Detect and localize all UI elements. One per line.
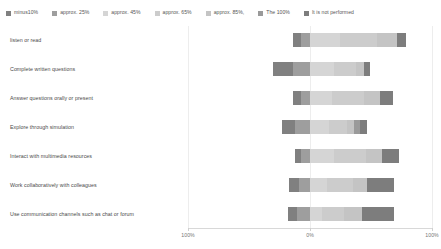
legend-item-label: approx. 25% [60,10,89,15]
legend-item-label: It is not performed [312,10,354,15]
category-label: Complete written questions [10,66,75,72]
bar-segment[interactable] [382,149,399,163]
stacked-bar[interactable] [293,33,406,47]
legend-item[interactable]: approx. 65% [155,10,192,15]
legend-item-label: approx. 65% [163,10,192,15]
bar-segment[interactable] [310,120,330,134]
bar-segment[interactable] [334,149,366,163]
chart-row: Interact with multimedia resources [0,141,441,170]
chart-row: Explore through simulation [0,113,441,142]
bar-segment[interactable] [329,120,346,134]
bar-segment[interactable] [301,91,310,105]
bar-segment[interactable] [362,207,394,221]
bar-segment[interactable] [295,120,310,134]
bar-segment[interactable] [364,91,380,105]
stacked-bar[interactable] [293,91,393,105]
bar-segment[interactable] [301,33,310,47]
bar-segment[interactable] [282,120,295,134]
legend-item[interactable]: The 100% [258,10,290,15]
legend-item-label: minus10% [14,10,38,15]
bar-segment[interactable] [377,33,397,47]
legend-item-label: The 100% [266,10,290,15]
bar-segment[interactable] [397,33,407,47]
bar-segment[interactable] [364,62,370,76]
chart-row: Complete written questions [0,55,441,84]
stacked-bar[interactable] [273,62,369,76]
bar-segment[interactable] [344,207,362,221]
legend-swatch-icon [155,11,160,16]
plot-area: listen or readComplete written questions… [0,26,441,228]
bar-segment[interactable] [322,207,344,221]
bar-segment[interactable] [299,178,310,192]
bar-segment[interactable] [353,178,368,192]
axis-tick [310,228,311,231]
bar-segment[interactable] [380,91,393,105]
bar-segment[interactable] [356,62,363,76]
diverging-stacked-bar-chart: minus10%approx. 25%approx. 45%approx. 65… [0,0,441,249]
chart-row: Work collaboratively with colleagues [0,170,441,199]
bar-segment[interactable] [288,207,297,221]
category-label: Work collaboratively with colleagues [10,182,97,188]
axis-tick [432,228,433,231]
axis-tick-label: 0% [306,232,314,238]
bar-segment[interactable] [332,91,364,105]
stacked-bar[interactable] [289,178,394,192]
bar-segment[interactable] [367,178,394,192]
legend-swatch-icon [304,11,309,16]
bar-segment[interactable] [293,91,302,105]
axis-tick-label: 100% [181,232,194,238]
stacked-bar[interactable] [282,120,367,134]
bar-segment[interactable] [340,33,377,47]
bar-segment[interactable] [301,149,310,163]
chart-legend: minus10%approx. 25%approx. 45%approx. 65… [0,0,441,26]
legend-item-label: approx. 45% [111,10,140,15]
chart-row: listen or read [0,26,441,55]
bar-segment[interactable] [293,33,302,47]
category-label: Explore through simulation [10,124,74,130]
legend-item-label: approx. 85%, [214,10,245,15]
bar-segment[interactable] [310,33,341,47]
stacked-bar[interactable] [295,149,399,163]
bar-segment[interactable] [293,62,310,76]
category-label: Interact with multimedia resources [10,153,92,159]
bar-segment[interactable] [327,178,353,192]
bar-segment[interactable] [310,178,327,192]
legend-swatch-icon [206,11,211,16]
legend-swatch-icon [52,11,57,16]
axis-tick-label: 100% [425,232,438,238]
legend-swatch-icon [6,11,11,16]
legend-item[interactable]: It is not performed [304,10,354,15]
chart-row: Answer questions orally or present [0,84,441,113]
bar-segment[interactable] [273,62,293,76]
bar-segment[interactable] [347,120,354,134]
bar-segment[interactable] [360,120,367,134]
legend-item[interactable]: approx. 45% [103,10,140,15]
bar-segment[interactable] [297,207,310,221]
chart-row: Use communication channels such as chat … [0,199,441,228]
category-label: listen or read [10,37,41,43]
axis-tick [188,228,189,231]
bar-segment[interactable] [289,178,299,192]
category-label: Answer questions orally or present [10,95,93,101]
legend-swatch-icon [103,11,108,16]
legend-swatch-icon [258,11,263,16]
bar-segment[interactable] [310,62,334,76]
bar-segment[interactable] [310,91,332,105]
legend-item[interactable]: approx. 85%, [206,10,245,15]
stacked-bar[interactable] [288,207,394,221]
legend-item[interactable]: approx. 25% [52,10,89,15]
legend-item[interactable]: minus10% [6,10,38,15]
x-axis: 100%0%100% [0,228,441,249]
bar-segment[interactable] [366,149,382,163]
bar-segment[interactable] [310,149,334,163]
bar-segment[interactable] [310,207,322,221]
category-label: Use communication channels such as chat … [10,211,134,217]
bar-segment[interactable] [334,62,356,76]
